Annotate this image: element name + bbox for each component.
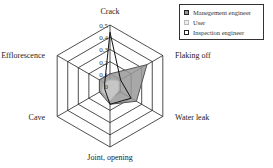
category-label: Cave bbox=[29, 113, 46, 122]
tick-label: 0.4 bbox=[99, 34, 108, 42]
category-label: Flaking off bbox=[175, 51, 211, 60]
legend-item: Manegement engineer bbox=[184, 7, 259, 17]
legend-swatch-icon bbox=[184, 20, 189, 25]
tick-label: 0.1 bbox=[99, 71, 108, 79]
category-label: Crack bbox=[100, 7, 119, 16]
legend: Manegement engineer User Inspection engi… bbox=[179, 4, 264, 40]
tick-label: 0.3 bbox=[99, 46, 108, 54]
category-label: Water leak bbox=[175, 113, 209, 122]
tick-label: 0.2 bbox=[99, 59, 108, 67]
radar-chart: 00.10.20.30.40.5CrackFlaking offWater le… bbox=[0, 0, 273, 168]
legend-item: Inspection engineer bbox=[184, 27, 259, 37]
category-label: Joint, opening bbox=[87, 153, 132, 162]
legend-swatch-icon bbox=[184, 30, 189, 35]
tick-label: 0.5 bbox=[99, 22, 108, 30]
legend-item: User bbox=[184, 17, 259, 27]
legend-swatch-icon bbox=[184, 10, 189, 15]
tick-label: 0 bbox=[105, 83, 109, 91]
category-label: Efflorescence bbox=[1, 51, 45, 60]
